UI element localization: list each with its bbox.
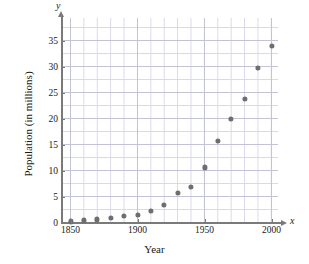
y-tick-mark — [61, 197, 65, 198]
y-tick-mark — [61, 145, 65, 146]
y-tick-label: 5 — [36, 192, 58, 202]
x-tick-label: 1900 — [116, 225, 160, 235]
y-tick-mark — [61, 93, 65, 94]
y-tick-label: 35 — [36, 36, 58, 46]
grid-major — [62, 18, 278, 223]
y-tick-label: 25 — [36, 88, 58, 98]
y-tick-label: 30 — [36, 62, 58, 72]
y-tick-label: 10 — [36, 166, 58, 176]
x-axis-title: Year — [0, 243, 309, 255]
y-axis-line — [61, 16, 63, 224]
x-tick-label: 1950 — [183, 225, 227, 235]
x-tick-mark — [138, 219, 139, 223]
x-tick-label: 2000 — [250, 225, 294, 235]
y-tick-mark — [61, 119, 65, 120]
y-tick-label: 15 — [36, 140, 58, 150]
x-tick-mark — [205, 219, 206, 223]
y-axis-title: Population (in millions) — [22, 34, 34, 214]
y-tick-mark — [61, 171, 65, 172]
x-tick-mark — [272, 219, 273, 223]
x-axis-line — [61, 222, 282, 224]
y-tick-mark — [61, 41, 65, 42]
y-tick-mark — [61, 67, 65, 68]
scatter-plot-figure: y x 05101520253035 1850190019502000 Year… — [0, 0, 309, 264]
x-tick-mark — [71, 219, 72, 223]
plot-area — [62, 18, 278, 223]
y-tick-mark — [61, 223, 65, 224]
y-tick-label: 20 — [36, 114, 58, 124]
y-axis-arrow-icon — [58, 11, 64, 17]
x-tick-label: 1850 — [49, 225, 93, 235]
